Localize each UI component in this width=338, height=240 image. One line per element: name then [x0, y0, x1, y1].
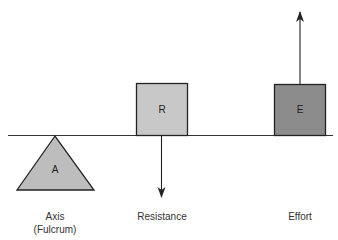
resistance: R [137, 84, 188, 199]
resistance-label: R [158, 104, 165, 115]
fulcrum-caption-fulcrum: (Fulcrum) [34, 224, 77, 235]
effort-label: E [297, 104, 304, 115]
fulcrum-label: A [52, 164, 59, 175]
lever-diagram: A R E Axis (Fulcrum) Resistance Effort [0, 0, 338, 240]
effort-caption: Effort [288, 211, 312, 222]
fulcrum-caption-axis: Axis [46, 211, 65, 222]
fulcrum-triangle-icon [17, 136, 94, 190]
effort: E [275, 11, 326, 136]
resistance-caption: Resistance [137, 211, 187, 222]
fulcrum: A [17, 136, 94, 190]
